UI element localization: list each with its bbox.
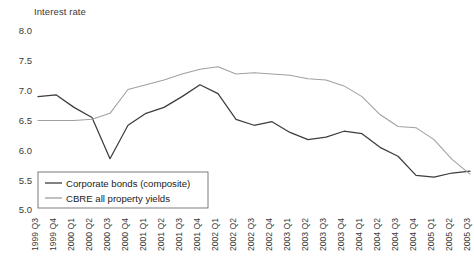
x-tick-label: 2003 Q3 [318,218,328,251]
y-tick-label: 6.5 [19,115,32,126]
y-tick-label: 6.0 [19,145,32,156]
x-tick-label: 2001 Q1 [138,218,148,251]
y-axis-tick-labels: 8.07.57.06.56.05.55.0 [19,25,32,215]
chart-series-lines [38,67,470,177]
x-axis-tick-labels: 1999 Q31999 Q42000 Q12000 Q22000 Q32000 … [30,218,472,251]
interest-rate-chart: Interest rate 8.07.57.06.56.05.55.0 1999… [0,0,474,273]
x-tick-label: 2001 Q4 [192,218,202,251]
x-tick-label: 2004 Q1 [354,218,364,251]
y-tick-label: 7.0 [19,85,32,96]
x-tick-label: 2003 Q4 [336,218,346,251]
x-tick-label: 2001 Q3 [174,218,184,251]
series-line [38,85,470,177]
x-tick-label: 1999 Q4 [48,218,58,251]
y-tick-label: 5.0 [19,204,32,215]
x-tick-label: 2002 Q3 [246,218,256,251]
chart-legend: Corporate bonds (composite)CBRE all prop… [38,172,208,208]
y-tick-label: 8.0 [19,25,32,36]
y-tick-label: 7.5 [19,55,32,66]
x-tick-label: 2005 Q3 [462,218,472,251]
x-tick-label: 2002 Q2 [228,218,238,251]
y-tick-label: 5.5 [19,175,32,186]
x-tick-label: 2002 Q4 [264,218,274,251]
x-tick-label: 2000 Q1 [66,218,76,251]
x-tick-label: 2005 Q2 [444,218,454,251]
chart-plot-area: 8.07.57.06.56.05.55.0 1999 Q31999 Q42000… [0,0,474,273]
x-tick-label: 2002 Q1 [210,218,220,251]
x-tick-label: 2004 Q2 [372,218,382,251]
x-tick-label: 2000 Q3 [102,218,112,251]
x-tick-label: 2004 Q4 [408,218,418,251]
x-tick-label: 2005 Q1 [426,218,436,251]
x-tick-label: 2004 Q3 [390,218,400,251]
x-tick-label: 2003 Q2 [300,218,310,251]
legend-label: Corporate bonds (composite) [66,178,190,189]
legend-label: CBRE all property yields [66,193,170,204]
series-line [38,67,470,174]
x-tick-label: 2001 Q2 [156,218,166,251]
x-tick-label: 1999 Q3 [30,218,40,251]
x-tick-label: 2003 Q1 [282,218,292,251]
x-tick-label: 2000 Q2 [84,218,94,251]
x-tick-label: 2000 Q4 [120,218,130,251]
